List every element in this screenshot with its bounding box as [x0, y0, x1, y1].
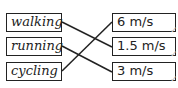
check-icon: ✓ [170, 74, 178, 84]
right-item-3ms[interactable]: 3 m/s [112, 62, 176, 81]
right-item-1-5ms[interactable]: 1.5 m/s [112, 37, 176, 56]
check-icon: ✓ [170, 25, 178, 35]
left-item-walking[interactable]: walking [6, 13, 62, 32]
check-icon: ✓ [170, 49, 178, 59]
right-item-6ms[interactable]: 6 m/s [112, 13, 176, 32]
left-item-cycling[interactable]: cycling [6, 62, 62, 81]
left-item-running[interactable]: running [6, 37, 62, 56]
